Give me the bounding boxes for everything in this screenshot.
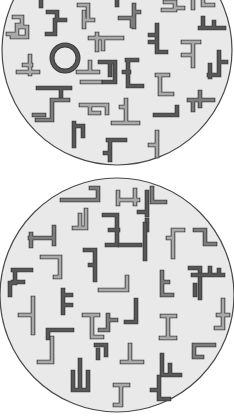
- search-display-bottom: [0, 178, 234, 412]
- visual-search-stimulus: [0, 0, 234, 417]
- target-display-top: [2, 0, 232, 165]
- stimulus-canvas: [0, 0, 234, 417]
